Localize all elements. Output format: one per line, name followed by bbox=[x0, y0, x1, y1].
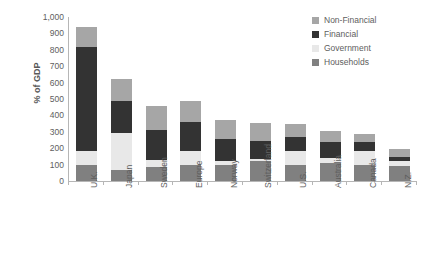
legend-item[interactable]: Non-Financial bbox=[312, 13, 424, 27]
x-axis-tick bbox=[277, 181, 278, 185]
y-axis-tick-label: 0 bbox=[22, 176, 64, 186]
y-axis-tick-label: 100 bbox=[22, 160, 64, 170]
y-axis-tick-label: 500 bbox=[22, 94, 64, 104]
bar-segment[interactable] bbox=[111, 79, 132, 101]
x-axis-tick bbox=[172, 181, 173, 185]
x-axis-tick-label: Japan bbox=[124, 165, 134, 188]
bar-segment[interactable] bbox=[76, 151, 97, 165]
x-axis-tick bbox=[103, 181, 104, 185]
legend-label: Non-Financial bbox=[324, 15, 376, 25]
x-axis-tick bbox=[68, 181, 69, 185]
y-axis-tick-labels: 1,0009008007006005004003002001000 bbox=[22, 11, 64, 187]
x-axis-tick bbox=[242, 181, 243, 185]
bar-segment[interactable] bbox=[111, 101, 132, 134]
bar-segment[interactable] bbox=[76, 47, 97, 151]
x-axis-tick bbox=[416, 181, 417, 185]
legend-item[interactable]: Government bbox=[312, 41, 424, 55]
x-axis-tick-label: N.Z. bbox=[403, 172, 413, 188]
legend-label: Financial bbox=[324, 29, 358, 39]
legend-item[interactable]: Financial bbox=[312, 27, 424, 41]
x-axis-ticks bbox=[68, 181, 417, 185]
x-axis-tick-label: Norway bbox=[229, 159, 239, 188]
legend-swatch-icon bbox=[312, 45, 319, 52]
x-axis-tick-label: U.S. bbox=[298, 171, 308, 188]
bar-segment[interactable] bbox=[180, 101, 201, 122]
bar-segment[interactable] bbox=[76, 27, 97, 47]
bar-segment[interactable] bbox=[250, 123, 271, 141]
y-axis-tick-label: 600 bbox=[22, 78, 64, 88]
x-axis-tick bbox=[346, 181, 347, 185]
y-axis-tick-label: 400 bbox=[22, 110, 64, 120]
legend-swatch-icon bbox=[312, 31, 319, 38]
chart-container: % of GDP 1,00090080070060050040030020010… bbox=[0, 0, 427, 256]
bar-segment[interactable] bbox=[354, 134, 375, 141]
legend-swatch-icon bbox=[312, 59, 319, 66]
legend-swatch-icon bbox=[312, 17, 319, 24]
x-axis-tick-label: Switzerland bbox=[263, 144, 273, 188]
bar-segment[interactable] bbox=[215, 120, 236, 139]
legend-label: Government bbox=[324, 43, 371, 53]
y-axis-tick-label: 200 bbox=[22, 143, 64, 153]
bar-segment[interactable] bbox=[389, 149, 410, 157]
x-axis-tick-label: Europe bbox=[194, 161, 204, 188]
bar-group[interactable] bbox=[76, 27, 97, 181]
x-axis-tick-label: Sweden bbox=[159, 157, 169, 188]
bar-segment[interactable] bbox=[285, 137, 306, 151]
x-axis-tick bbox=[207, 181, 208, 185]
x-axis-tick-label: Canada bbox=[368, 158, 378, 188]
bar-segment[interactable] bbox=[285, 151, 306, 166]
x-axis-tick-label: Australia bbox=[333, 155, 343, 188]
legend-item[interactable]: Households bbox=[312, 55, 424, 69]
y-axis-tick-label: 1,000 bbox=[22, 12, 64, 22]
bar-segment[interactable] bbox=[146, 130, 167, 160]
x-axis-tick bbox=[312, 181, 313, 185]
bar-segment[interactable] bbox=[285, 124, 306, 136]
x-axis-tick bbox=[138, 181, 139, 185]
y-axis-tick-label: 700 bbox=[22, 61, 64, 71]
bar-segment[interactable] bbox=[320, 131, 341, 142]
bar-segment[interactable] bbox=[215, 139, 236, 160]
legend-label: Households bbox=[324, 57, 369, 67]
x-axis-tick-labels: U.K.JapanSwedenEuropeNorwaySwitzerlandU.… bbox=[68, 186, 417, 256]
bar-segment[interactable] bbox=[146, 106, 167, 131]
y-axis-tick-label: 900 bbox=[22, 28, 64, 38]
x-axis-tick-label: U.K. bbox=[89, 171, 99, 188]
bar-segment[interactable] bbox=[354, 142, 375, 152]
x-axis-tick bbox=[381, 181, 382, 185]
y-axis-tick-label: 800 bbox=[22, 45, 64, 55]
bar-segment[interactable] bbox=[180, 122, 201, 151]
y-axis-tick-label: 300 bbox=[22, 127, 64, 137]
chart-legend: Non-FinancialFinancialGovernmentHousehol… bbox=[312, 13, 424, 69]
